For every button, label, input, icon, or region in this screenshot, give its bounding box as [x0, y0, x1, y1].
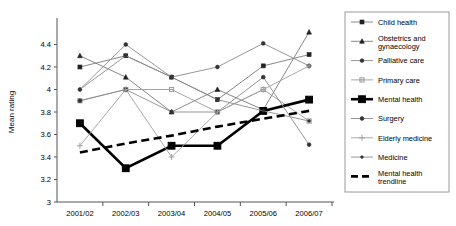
- y-axis-title: Mean rating: [7, 91, 16, 133]
- legend-label: Mental health: [378, 95, 422, 104]
- chart-figure: 33.23.43.63.844.24.42001/022002/032003/0…: [0, 0, 456, 226]
- series-palliative-care: [78, 41, 311, 91]
- data-point-marker: [170, 76, 173, 79]
- series-line: [80, 55, 309, 100]
- data-point-marker: [122, 165, 129, 172]
- data-point-marker: [168, 142, 175, 149]
- data-point-marker: [360, 20, 364, 24]
- x-tick-label: 2001/02: [66, 209, 93, 218]
- series-line: [80, 66, 309, 157]
- data-point-marker: [359, 96, 366, 103]
- data-point-marker: [78, 65, 82, 69]
- data-point-marker: [261, 75, 265, 79]
- data-point-marker: [306, 96, 313, 103]
- line-chart: 33.23.43.63.844.24.42001/022002/032003/0…: [0, 0, 456, 226]
- data-point-marker: [360, 59, 364, 63]
- data-point-marker: [262, 109, 265, 112]
- y-tick-label: 3.8: [40, 108, 51, 117]
- legend-label: Child health: [378, 18, 417, 27]
- series-line: [80, 56, 309, 121]
- data-point-marker: [216, 65, 220, 69]
- data-point-marker: [79, 88, 82, 91]
- legend-label: Surgery: [378, 114, 404, 123]
- x-tick-label: 2003/04: [158, 209, 185, 218]
- x-tick-label: 2005/06: [250, 209, 277, 218]
- data-point-marker: [124, 54, 127, 57]
- series-child-health: [78, 53, 311, 102]
- data-point-marker: [78, 53, 83, 58]
- chart-legend: Child healthObstetrics andgynaecologyPal…: [345, 12, 449, 192]
- legend-label: Palliative care: [378, 56, 424, 65]
- series-surgery: [78, 75, 311, 146]
- y-tick-label: 3.6: [40, 130, 51, 139]
- y-tick-label: 4.4: [40, 40, 51, 49]
- data-point-marker: [215, 87, 220, 92]
- x-tick-label: 2006/07: [295, 209, 322, 218]
- data-point-marker: [77, 120, 84, 127]
- y-tick-label: 3.4: [40, 153, 51, 162]
- data-point-marker: [307, 53, 311, 57]
- data-point-marker: [78, 99, 82, 103]
- legend-label: trendline: [378, 177, 406, 186]
- y-tick-label: 4: [47, 85, 51, 94]
- data-point-marker: [308, 120, 311, 123]
- x-tick-label: 2004/05: [204, 209, 231, 218]
- legend-label: Primary care: [378, 76, 420, 85]
- y-tick-label: 3.2: [40, 175, 51, 184]
- data-point-marker: [361, 156, 364, 159]
- x-tick-label: 2002/03: [112, 209, 139, 218]
- legend-label: Elderly medicine: [378, 134, 432, 143]
- data-point-marker: [216, 98, 219, 101]
- data-point-marker: [307, 30, 312, 35]
- data-point-marker: [124, 43, 128, 47]
- legend-label: Medicine: [378, 153, 408, 162]
- data-point-marker: [214, 142, 221, 149]
- data-point-marker: [170, 110, 174, 114]
- series-line: [80, 43, 309, 89]
- legend-item-mental-health[interactable]: Mental health: [351, 95, 422, 104]
- data-point-marker: [261, 41, 265, 45]
- y-tick-label: 4.2: [40, 63, 51, 72]
- data-point-marker: [261, 64, 265, 68]
- y-tick-label: 3: [47, 198, 51, 207]
- data-point-marker: [360, 117, 364, 121]
- legend-label: gynaecology: [378, 42, 420, 51]
- data-point-marker: [307, 143, 311, 147]
- plot-area: [77, 30, 313, 172]
